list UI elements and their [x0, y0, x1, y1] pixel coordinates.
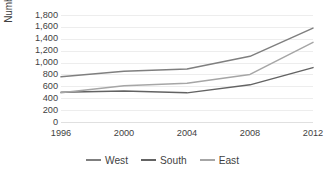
y-axis-tick-label: 1,600	[16, 21, 58, 32]
x-axis-tick-label: 2000	[101, 127, 147, 140]
y-axis-tick-label: 1,800	[16, 10, 58, 21]
y-axis-tick-labels: 02004006008001,0001,2001,4001,6001,800	[16, 9, 58, 129]
line-chart: Number of firms 02004006008001,0001,2001…	[0, 0, 325, 176]
legend-line-icon	[86, 159, 101, 161]
y-axis-tick-label: 800	[16, 69, 58, 80]
legend-item-label: East	[219, 154, 239, 167]
y-axis-tick-label: 0	[16, 117, 58, 128]
y-axis-tick-label: 400	[16, 93, 58, 104]
series-lines	[61, 15, 313, 122]
x-axis-tick-label: 2004	[164, 127, 210, 140]
legend-item-south[interactable]: South	[141, 154, 187, 167]
legend-line-icon	[141, 159, 156, 161]
legend-line-icon	[200, 159, 215, 161]
x-axis-tick-label: 2012	[290, 127, 325, 140]
x-axis-tick-label: 1996	[38, 127, 84, 140]
y-axis-tick-label: 600	[16, 81, 58, 92]
x-axis-tick-label: 2008	[227, 127, 273, 140]
x-axis-tick-labels: 19962000200420082012	[61, 127, 313, 141]
plot-area	[61, 15, 313, 122]
legend-item-label: South	[160, 154, 187, 167]
y-axis-tick-label: 1,200	[16, 45, 58, 56]
series-line-east	[61, 42, 313, 93]
y-axis-tick-label: 1,400	[16, 33, 58, 44]
y-axis-title: Number of firms	[2, 0, 16, 42]
y-axis-tick-label: 200	[16, 105, 58, 116]
y-axis-tick-label: 1,000	[16, 57, 58, 68]
legend-item-east[interactable]: East	[200, 154, 239, 167]
chart-legend: WestSouthEast	[0, 152, 325, 168]
legend-item-west[interactable]: West	[86, 154, 128, 167]
gridline	[61, 122, 313, 123]
series-line-west	[61, 28, 313, 77]
legend-item-label: West	[105, 154, 128, 167]
